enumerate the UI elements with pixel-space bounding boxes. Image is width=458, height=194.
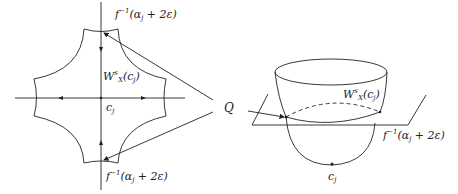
critical-point-label-right: cj (328, 171, 336, 184)
level-set-label-right: f−1(αj + 2ε) (383, 129, 445, 143)
bowl-rim (275, 59, 387, 85)
critical-point-right (331, 163, 334, 166)
stable-manifold-label-right: WsX(cj) (343, 88, 380, 102)
diagram-canvas (0, 0, 458, 194)
dashed-back-ellipse (286, 103, 380, 117)
level-set-label-bottom: f−1(αj + 2ε) (106, 170, 168, 184)
stable-manifold-label-left: WsX(cj) (103, 70, 140, 84)
bowl-upper-left (275, 72, 286, 117)
pointer-bottom (104, 112, 213, 160)
level-set-label-top: f−1(αj + 2ε) (115, 8, 177, 22)
level-plane (252, 94, 426, 125)
q-label: Q (224, 102, 234, 114)
front-ellipse (286, 112, 380, 122)
pointer-q (248, 111, 284, 117)
paraboloid-lower (286, 117, 375, 165)
pointer-top (104, 33, 213, 100)
critical-point-label-left: cj (106, 102, 114, 115)
